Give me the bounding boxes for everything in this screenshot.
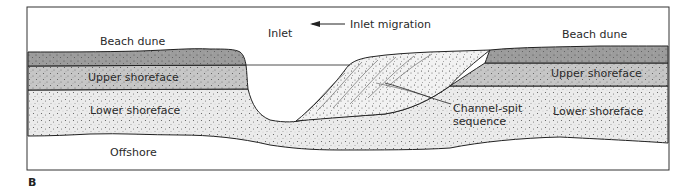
label-lower-shoreface-right: Lower shoreface bbox=[553, 105, 644, 118]
cross-section-diagram: Beach dune Inlet Inlet migration Beach d… bbox=[0, 0, 697, 189]
label-beach-dune-right: Beach dune bbox=[562, 28, 627, 41]
label-beach-dune-left: Beach dune bbox=[100, 35, 165, 48]
label-upper-shoreface-left: Upper shoreface bbox=[88, 71, 179, 84]
label-inlet-migration: Inlet migration bbox=[350, 18, 431, 31]
label-lower-shoreface-left: Lower shoreface bbox=[90, 104, 181, 117]
label-upper-shoreface-right: Upper shoreface bbox=[551, 67, 642, 80]
panel-label: B bbox=[28, 176, 36, 189]
label-channel-spit-line1: Channel-spit bbox=[453, 102, 523, 115]
label-inlet: Inlet bbox=[268, 27, 293, 40]
layer-beach-dune-right bbox=[485, 46, 668, 63]
label-offshore: Offshore bbox=[110, 146, 157, 159]
label-channel-spit-line2: sequence bbox=[453, 115, 506, 128]
